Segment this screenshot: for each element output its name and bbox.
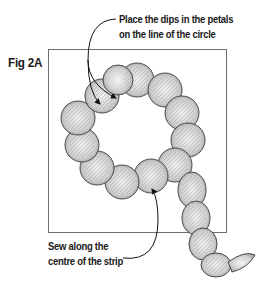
diagram-canvas	[0, 0, 266, 290]
annotation-top-line-2: on the line of the circle	[119, 28, 216, 41]
annotation-bottom-line-2: centre of the strip	[48, 255, 123, 268]
fabric-strip-tail	[178, 172, 255, 277]
arrow-to-strip-centre	[123, 189, 158, 258]
annotation-top-line-1: Place the dips in the petals	[119, 13, 233, 26]
annotation-bottom-line-1: Sew along the	[48, 240, 108, 253]
figure-label: Fig 2A	[8, 55, 42, 70]
